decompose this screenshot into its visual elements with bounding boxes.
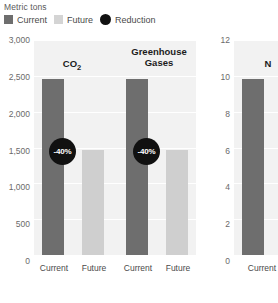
legend-label-future: Future [67,15,93,25]
legend-circle-icon [100,14,111,25]
legend-square-icon [4,15,13,24]
y-tick-label: 2,500 [0,72,30,82]
group-title-co2: CO2 [42,58,102,73]
gridline [234,76,278,77]
bar-n-current [242,79,264,255]
y-tick-label: 3,000 [0,35,30,45]
reduction-badge-co2: -40% [49,138,76,165]
bar-ghg-future [166,150,188,255]
y-tick-label: 2 [208,219,230,229]
y-tick-label: 6 [208,146,230,156]
legend-item-future: Future [54,15,93,25]
bar-co2-current [42,79,64,255]
y-tick-label: 4 [208,182,230,192]
units-label: Metric tons [4,2,47,12]
reduction-badge-ghg: -40% [133,138,160,165]
y-tick-label: 12 [208,35,230,45]
y-tick-label: 8 [208,109,230,119]
legend-item-current: Current [4,15,47,25]
y-tick-label: 500 [0,219,30,229]
gridline [34,76,196,77]
x-label-ghg-future: Future [152,263,204,273]
gridline [234,40,278,41]
chart-panel-metric-tons: 0 500 1,000 1,500 2,000 2,500 3,000 CO2 … [0,34,200,277]
chart-figure: Metric tons Current Future Reduction 0 5… [0,0,278,303]
y-tick-label: 1,000 [0,182,30,192]
bar-ghg-current [126,79,148,255]
y-tick-label: 2,000 [0,109,30,119]
y-tick-label: 0 [208,256,230,266]
plot-area [234,40,278,255]
legend-item-reduction: Reduction [100,14,156,25]
x-label-n-current: Current [236,263,278,273]
legend-label-current: Current [17,15,47,25]
chart-panel-secondary: 0 2 4 6 8 10 12 N Current [208,34,278,277]
chart-legend: Current Future Reduction [4,14,156,25]
gridline [34,40,196,41]
bar-co2-future [82,150,104,255]
y-tick-label: 10 [208,72,230,82]
group-title-n: N [248,58,278,69]
legend-square-icon [54,15,63,24]
group-title-greenhouse-gases: Greenhouse Gases [124,46,194,68]
y-tick-label: 1,500 [0,146,30,156]
legend-label-reduction: Reduction [115,15,156,25]
y-tick-label: 0 [0,256,30,266]
